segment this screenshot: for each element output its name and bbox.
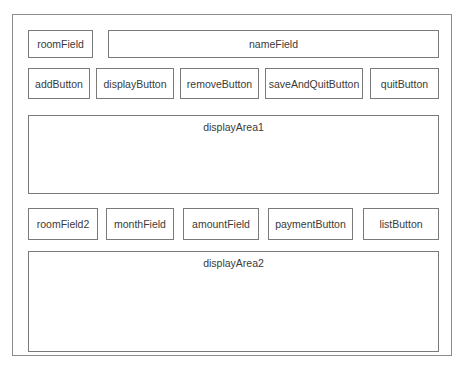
amount-field[interactable]: amountField	[183, 208, 259, 240]
list-button[interactable]: listButton	[363, 208, 439, 240]
display-area-1[interactable]: displayArea1	[28, 115, 439, 194]
payment-button[interactable]: paymentButton	[268, 208, 353, 240]
add-button[interactable]: addButton	[28, 68, 90, 99]
display-area-2[interactable]: displayArea2	[28, 251, 439, 352]
remove-button[interactable]: removeButton	[180, 68, 259, 99]
save-and-quit-button[interactable]: saveAndQuitButton	[265, 68, 363, 99]
room-field-2[interactable]: roomField2	[28, 208, 98, 240]
quit-button[interactable]: quitButton	[370, 68, 439, 99]
room-field[interactable]: roomField	[28, 30, 93, 58]
month-field[interactable]: monthField	[106, 208, 174, 240]
display-button[interactable]: displayButton	[96, 68, 174, 99]
name-field[interactable]: nameField	[108, 30, 439, 58]
